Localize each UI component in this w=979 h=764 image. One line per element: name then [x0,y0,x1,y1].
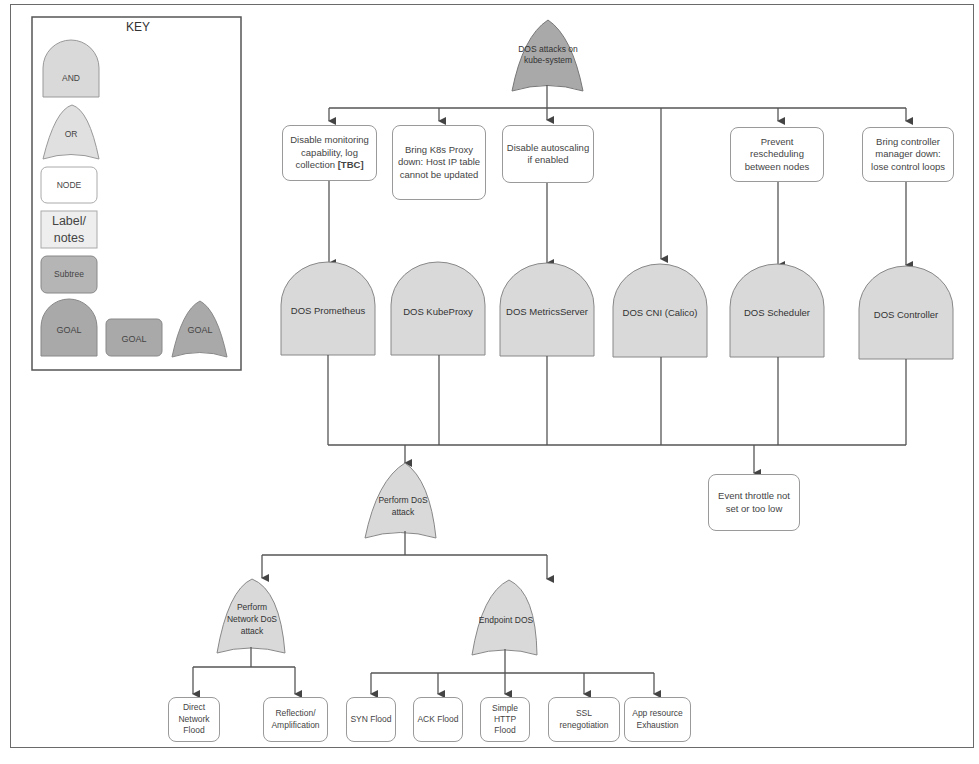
key-and-label: AND [43,70,99,86]
and-gate-label: DOS Controller [859,306,953,322]
key-label-notes-label: Label/ notes [41,212,97,248]
key-goal-and-label: GOAL [41,322,97,338]
leaf-direct-network-flood: Direct Network Flood [168,697,220,742]
condition-k8s-proxy: Bring K8s Proxy down: Host IP table cann… [392,125,486,200]
perform-dos-label: Perform DoS attack [372,493,434,519]
key-goal-or-label: GOAL [172,322,228,338]
leaf-app-resource-exhaustion: App resource Exhaustion [624,697,691,742]
leaf-syn-flood: SYN Flood [346,697,396,742]
leaf-ssl-renegotiation: SSL renegotiation [548,697,620,742]
condition-disable-monitoring: Disable monitoring capability, log colle… [282,125,377,181]
key-and-shape [43,40,99,97]
network-dos-label: Perform Network DoS attack [222,600,282,638]
attack-tree-diagram [0,0,979,764]
key-title: KEY [126,20,150,34]
key-node-label: NODE [41,177,97,193]
leaf-ack-flood: ACK Flood [413,697,463,742]
and-gate-label: DOS KubeProxy [391,303,485,319]
endpoint-dos-label: Endpoint DOS [475,612,537,628]
and-gate-label: DOS MetricsServer [500,303,594,319]
and-gate-label: DOS CNI (Calico) [613,304,707,320]
and-gate-label: DOS Prometheus [281,302,375,318]
leaf-reflection-amplification: Reflection/ Amplification [263,697,328,742]
and-gate-label: DOS Scheduler [730,304,824,320]
key-subtree-label: Subtree [41,266,97,282]
condition-autoscaling: Disable autoscaling if enabled [502,125,594,183]
key-or-label: OR [43,126,99,142]
tbc-tag: [TBC] [338,159,364,170]
leaf-simple-http-flood: Simple HTTP Flood [480,697,530,742]
condition-controller-manager: Bring controller manager down: lose cont… [862,127,954,182]
condition-event-throttle: Event throttle not set or too low [708,474,800,531]
condition-rescheduling: Prevent rescheduling between nodes [730,127,824,182]
root-goal-label: DOS attacks on kube-system [518,36,578,74]
key-goal-rect-label: GOAL [106,331,162,347]
